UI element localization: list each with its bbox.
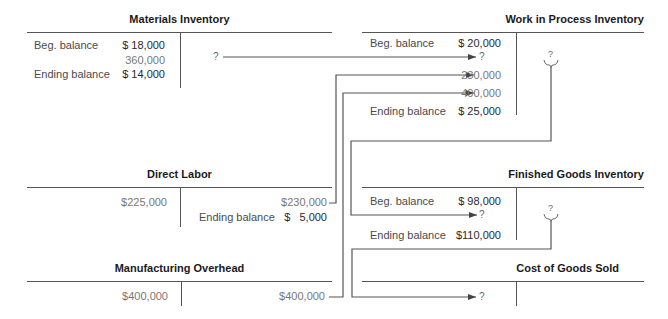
account-title-text: Work in Process Inventory — [505, 13, 644, 25]
overhead-applied-value: $400,000 — [255, 290, 325, 302]
overhead-in-value: 400,000 — [436, 87, 501, 99]
ending-balance-label: Ending balance — [34, 68, 110, 80]
ending-balance-label: Ending balance — [370, 105, 446, 117]
t-account-divider — [516, 32, 517, 115]
t-account-divider — [516, 281, 517, 306]
t-account-top-line — [27, 281, 332, 282]
cogs-out-unknown: ? — [548, 203, 553, 213]
ending-balance-label: Ending balance — [370, 229, 446, 241]
account-title: Manufacturing Overhead — [27, 262, 332, 274]
ending-balance-value: $ 14,000 — [100, 68, 165, 80]
ending-balance-value: $ 5,000 — [270, 211, 327, 223]
t-account-divider — [516, 187, 517, 240]
labor-transferred-value: $230,000 — [260, 196, 327, 208]
cogs-in-unknown: ? — [479, 291, 485, 302]
materials-used-unknown: ? — [213, 51, 219, 62]
t-account-divider — [180, 32, 181, 88]
cogm-unknown: ? — [548, 49, 553, 59]
beg-balance-label: Beg. balance — [370, 195, 434, 207]
beg-balance-value: $ 98,000 — [436, 195, 501, 207]
beg-balance-value: $ 20,000 — [436, 37, 501, 49]
labor-incurred-value: $225,000 — [100, 196, 167, 208]
account-title: Work in Process Inventory — [362, 13, 644, 25]
t-account-top-line — [362, 187, 644, 188]
beg-balance-value: $ 18,000 — [100, 39, 165, 51]
account-title: Cost of Goods Sold — [362, 262, 644, 274]
materials-in-unknown: ? — [479, 51, 485, 62]
account-title-text: Cost of Goods Sold — [516, 262, 619, 274]
overhead-incurred-value: $400,000 — [100, 290, 168, 302]
wip-credit-brace — [544, 60, 558, 68]
account-title: Materials Inventory — [27, 13, 332, 25]
ending-balance-value: $ 25,000 — [436, 105, 501, 117]
ending-balance-value: $110,000 — [436, 229, 501, 241]
t-account-divider — [181, 281, 182, 306]
beg-balance-label: Beg. balance — [370, 37, 434, 49]
ending-balance-label: Ending balance — [199, 211, 275, 223]
beg-balance-label: Beg. balance — [34, 39, 98, 51]
t-account-top-line — [362, 281, 644, 282]
purchases-value: 360,000 — [100, 54, 165, 66]
labor-in-value: 230,000 — [436, 69, 501, 81]
fg-credit-brace — [544, 214, 558, 222]
cogm-in-unknown: ? — [479, 209, 485, 220]
account-title: Finished Goods Inventory — [362, 168, 644, 180]
t-account-divider — [180, 187, 181, 227]
account-title: Direct Labor — [27, 168, 332, 180]
t-account-top-line — [362, 32, 644, 33]
